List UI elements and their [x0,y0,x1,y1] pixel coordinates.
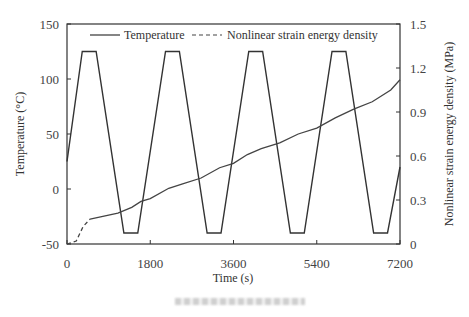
y-right-tick-label: 0 [410,237,417,252]
blurred-caption [175,298,305,305]
y-left-axis-title: Temperature (°C) [13,92,27,176]
y-right-axis-title: Nonlinear strain energy density (MPa) [442,42,456,226]
x-tick-label: 7200 [387,256,413,271]
plot-frame [67,24,400,244]
y-left-ticks: 150100500-50 [40,17,72,252]
x-tick-label: 1800 [137,256,163,271]
legend-temperature-label: Temperature [124,28,184,42]
x-tick-label: 3600 [221,256,247,271]
temperature-series [67,52,400,234]
strain-energy-series-dashed [67,219,90,244]
legend: Temperature Nonlinear strain energy dens… [90,28,378,42]
x-tick-label: 0 [64,256,71,271]
y-left-tick-label: 100 [40,72,60,87]
y-right-tick-label: 1.2 [410,61,426,76]
y-right-tick-label: 0.9 [410,105,426,120]
y-right-ticks: 1.51.20.90.60.30 [396,17,427,252]
y-left-tick-label: 50 [46,127,59,142]
chart: 150100500-50 1.51.20.90.60.30 0180036005… [0,0,469,317]
legend-strain-label: Nonlinear strain energy density [227,28,378,42]
y-left-tick-label: 150 [40,17,60,32]
x-ticks: 01800360054007200 [64,240,413,271]
y-right-tick-label: 0.6 [410,149,427,164]
x-tick-label: 5400 [304,256,330,271]
y-left-tick-label: 0 [53,182,60,197]
y-right-tick-label: 1.5 [410,17,426,32]
y-left-tick-label: -50 [42,237,59,252]
y-right-tick-label: 0.3 [410,193,426,208]
x-axis-title: Time (s) [213,271,254,285]
